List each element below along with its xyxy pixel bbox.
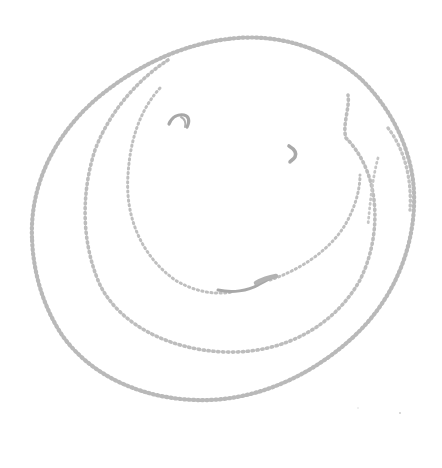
right-trail-arc <box>388 128 410 210</box>
right-eye <box>289 146 296 162</box>
inner-loop <box>128 88 232 293</box>
stray-speck <box>357 407 358 408</box>
smiley-spiral-drawing <box>0 0 442 468</box>
left-eye-fill <box>181 117 185 127</box>
stray-speck <box>399 412 401 414</box>
inner-loop-right <box>270 175 360 280</box>
drawing-canvas: Hand-drawn stippled smiley face with spi… <box>0 0 442 468</box>
outer-loop <box>32 38 414 401</box>
